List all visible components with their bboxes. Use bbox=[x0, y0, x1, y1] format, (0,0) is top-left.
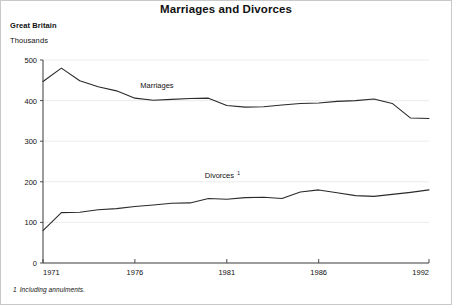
series-annotations: MarriagesDivorces1 bbox=[140, 81, 240, 180]
y-axis-ticks: 0100200300400500 bbox=[24, 56, 43, 268]
x-tick-label-1971: 1971 bbox=[43, 268, 60, 277]
chart-figure: Marriages and Divorces Great Britain Tho… bbox=[0, 0, 452, 305]
y-tick-label-300: 300 bbox=[24, 137, 37, 146]
series-label-superscript: 1 bbox=[237, 170, 240, 176]
plot-area: 0100200300400500 19711976198119861992 Ma… bbox=[0, 0, 452, 305]
y-tick-label-500: 500 bbox=[24, 56, 37, 65]
series-line-divorces bbox=[43, 190, 429, 231]
footnote-text: Including annulments. bbox=[20, 286, 85, 293]
x-axis-ticks: 19711976198119861992 bbox=[43, 259, 429, 277]
x-tick-label-1981: 1981 bbox=[218, 268, 235, 277]
y-tick-label-400: 400 bbox=[24, 97, 37, 106]
x-tick-label-1986: 1986 bbox=[310, 268, 327, 277]
x-tick-label-1976: 1976 bbox=[127, 268, 144, 277]
y-tick-label-200: 200 bbox=[24, 178, 37, 187]
series-line-marriages bbox=[43, 68, 429, 118]
footnote: 1Including annulments. bbox=[13, 286, 85, 293]
y-tick-label-0: 0 bbox=[33, 259, 37, 268]
y-tick-label-100: 100 bbox=[24, 218, 37, 227]
series-label-divorces: Divorces bbox=[205, 171, 234, 180]
x-tick-label-1992: 1992 bbox=[412, 268, 429, 277]
footnote-marker: 1 bbox=[13, 286, 17, 293]
data-series bbox=[43, 68, 429, 230]
series-label-marriages: Marriages bbox=[140, 81, 174, 90]
